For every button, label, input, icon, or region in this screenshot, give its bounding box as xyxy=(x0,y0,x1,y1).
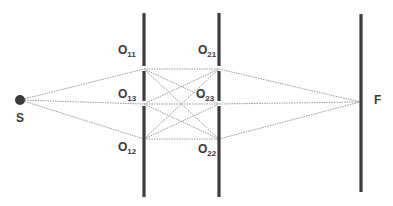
label-o13: O13 xyxy=(118,87,137,103)
optics-diagram: S F O11 O13 O12 O21 O23 O22 xyxy=(0,0,393,206)
label-f: F xyxy=(374,93,381,107)
label-s: S xyxy=(16,111,24,125)
rays-barrier1-to-barrier2 xyxy=(144,69,219,139)
label-o21: O21 xyxy=(198,43,217,59)
rays-source-to-barrier1 xyxy=(20,69,144,139)
label-o12: O12 xyxy=(118,140,137,156)
source-point xyxy=(15,95,25,105)
label-o23: O23 xyxy=(196,87,215,103)
label-o11: O11 xyxy=(118,43,136,59)
label-o22: O22 xyxy=(198,142,217,158)
rays-barrier2-to-focus xyxy=(219,69,360,139)
